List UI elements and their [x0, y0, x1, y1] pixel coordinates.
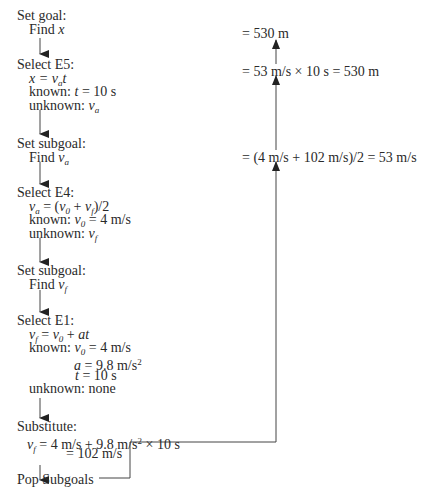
e5-unknown: unknown: va: [29, 98, 99, 118]
result-x: = 530 m: [242, 26, 289, 42]
step-pop-subgoals: Pop Subgoals: [17, 472, 94, 488]
find-label: Find: [29, 22, 55, 37]
result-e5: = 53 m/s × 10 s = 530 m: [242, 64, 379, 80]
substitute-result: = 102 m/s: [66, 446, 122, 462]
find-vf: Find vf: [29, 277, 67, 297]
e1-unknown: unknown: none: [29, 381, 116, 397]
find-va: Find va: [29, 150, 69, 170]
result-e4: = (4 m/s + 102 m/s)/2 = 53 m/s: [242, 150, 417, 166]
e4-unknown: unknown: vf: [29, 226, 97, 246]
step-set-goal-find: Find x: [29, 22, 64, 38]
